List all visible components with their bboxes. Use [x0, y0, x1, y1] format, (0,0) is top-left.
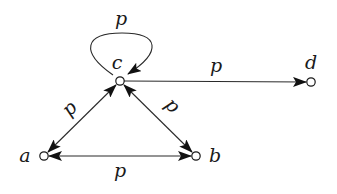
node-c	[116, 77, 124, 85]
edge-label-cd: p	[210, 54, 222, 76]
graph-diagram: c d a b p p p p p	[0, 0, 337, 194]
edge-label-cb: p	[161, 93, 185, 117]
node-d	[307, 78, 315, 86]
edge-label-loop: p	[115, 7, 127, 29]
node-b	[192, 152, 200, 160]
edge-label-ca: p	[57, 96, 81, 120]
node-label-a: a	[19, 144, 30, 166]
edge-label-ab: p	[114, 159, 126, 181]
edge-c-a	[48, 85, 116, 152]
node-a	[40, 152, 48, 160]
node-label-b: b	[209, 144, 221, 166]
node-label-c: c	[112, 51, 123, 73]
edge-c-b	[124, 85, 192, 152]
edge-c-to-d	[124, 81, 306, 82]
node-label-d: d	[305, 51, 317, 73]
